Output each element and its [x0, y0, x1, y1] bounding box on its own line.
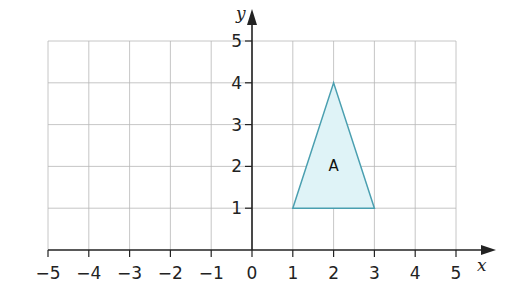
- y-tick-label: 4: [231, 73, 242, 93]
- shape-label-A: A: [328, 157, 339, 175]
- y-tick-label: 1: [231, 198, 242, 218]
- x-tick-label: −2: [158, 263, 183, 283]
- x-tick-label: −1: [199, 263, 224, 283]
- x-axis-label: x: [477, 255, 487, 275]
- x-tick-label: −4: [76, 263, 101, 283]
- x-tick-label: −5: [35, 263, 60, 283]
- x-tick-label: 3: [369, 263, 380, 283]
- triangle-A: [293, 83, 375, 208]
- x-tick-label: 5: [451, 263, 462, 283]
- coordinate-grid-chart: A −5−4−3−2−101234512345 x y: [0, 0, 508, 298]
- x-tick-label: 0: [247, 263, 258, 283]
- y-tick-label: 2: [231, 156, 242, 176]
- x-tick-label: 4: [410, 263, 421, 283]
- y-tick-label: 3: [231, 115, 242, 135]
- tick-labels: −5−4−3−2−101234512345: [35, 31, 461, 283]
- y-tick-label: 5: [231, 31, 242, 51]
- y-axis-arrow-icon: [247, 9, 257, 25]
- axes: [48, 9, 496, 255]
- x-axis-arrow-icon: [481, 245, 496, 255]
- shapes: A: [293, 83, 375, 208]
- x-tick-label: 2: [328, 263, 339, 283]
- y-axis-label: y: [235, 3, 246, 23]
- x-tick-label: 1: [287, 263, 298, 283]
- x-tick-label: −3: [117, 263, 142, 283]
